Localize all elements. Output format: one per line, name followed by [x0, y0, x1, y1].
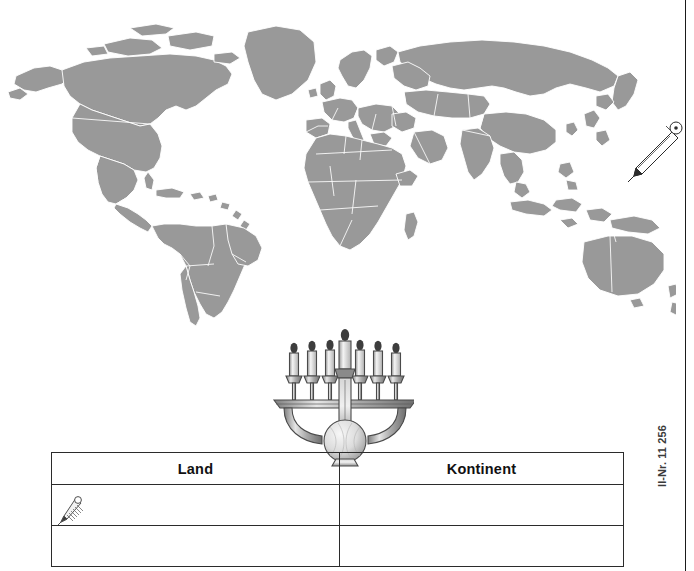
column-header-land: Land: [52, 453, 340, 485]
article-number: ll-Nr. 11 256: [656, 367, 672, 487]
margin-rule: [685, 0, 686, 571]
cell-land-1[interactable]: [52, 485, 340, 526]
pencil-small-icon: [56, 494, 86, 528]
answer-table: Land Kontinent: [51, 452, 624, 567]
column-header-kontinent: Kontinent: [340, 453, 624, 485]
table-header-row: Land Kontinent: [52, 453, 624, 485]
world-map: [0, 14, 676, 334]
menorah-icon: [258, 326, 414, 468]
cell-kontinent-1[interactable]: [340, 485, 624, 526]
table-row[interactable]: [52, 485, 624, 526]
table-row[interactable]: [52, 526, 624, 567]
pencil-large-icon: [620, 118, 686, 188]
worksheet-page: Land Kontinent: [0, 0, 694, 571]
cell-kontinent-2[interactable]: [340, 526, 624, 567]
cell-land-2[interactable]: [52, 526, 340, 567]
